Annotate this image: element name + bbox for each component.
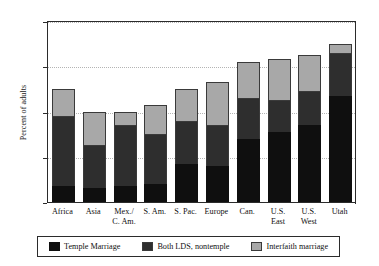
bar-s-pac[interactable]: [175, 89, 198, 202]
bar-segment-interfaith: [52, 89, 75, 116]
bar-can[interactable]: [237, 62, 260, 202]
bar-segment-temple: [144, 184, 167, 202]
legend-swatch-bothlds: [142, 242, 153, 251]
bar-segment-bothlds: [144, 134, 167, 184]
bar-mex-c-am[interactable]: [114, 112, 137, 202]
bar-u-s-west[interactable]: [298, 55, 321, 202]
bar-segment-temple: [268, 132, 291, 202]
bar-segment-interfaith: [268, 59, 291, 100]
bar-segment-temple: [52, 186, 75, 202]
bar-europe[interactable]: [206, 82, 229, 202]
legend-item[interactable]: Temple Marriage: [49, 242, 120, 251]
x-tick-label: Utah: [310, 207, 370, 217]
bar-segment-bothlds: [298, 91, 321, 125]
bar-segment-temple: [298, 125, 321, 202]
stacked-bar-chart-figure: Percent of adults 020406080 AfricaAsiaMe…: [0, 0, 379, 266]
bar-segment-temple: [329, 96, 352, 202]
bar-africa[interactable]: [52, 89, 75, 202]
plot-frame-right-border: [355, 21, 356, 204]
legend-swatch-interfaith: [251, 242, 262, 251]
bar-segment-temple: [114, 186, 137, 202]
bar-segment-bothlds: [175, 121, 198, 164]
y-axis-title: Percent of adults: [19, 43, 28, 183]
bar-segment-temple: [175, 164, 198, 202]
bar-asia[interactable]: [83, 112, 106, 202]
chart-legend: Temple MarriageBoth LDS, nontempleInterf…: [37, 236, 340, 257]
bar-segment-bothlds: [206, 125, 229, 166]
bar-segment-interfaith: [175, 89, 198, 121]
y-tick-mark: [43, 203, 47, 204]
legend-label: Temple Marriage: [64, 242, 120, 251]
legend-item[interactable]: Both LDS, nontemple: [142, 242, 229, 251]
bar-segment-interfaith: [329, 44, 352, 53]
bar-segment-interfaith: [144, 105, 167, 134]
bar-segment-temple: [206, 166, 229, 202]
legend-swatch-temple: [49, 242, 60, 251]
bar-segment-bothlds: [237, 98, 260, 139]
bar-segment-bothlds: [329, 53, 352, 96]
plot-area: [47, 22, 355, 203]
bar-segment-bothlds: [83, 145, 106, 188]
bar-segment-temple: [83, 188, 106, 202]
legend-item[interactable]: Interfaith marriage: [251, 242, 328, 251]
bar-u-s-east[interactable]: [268, 59, 291, 202]
legend-label: Interfaith marriage: [266, 242, 328, 251]
bar-segment-interfaith: [237, 62, 260, 98]
bar-segment-temple: [237, 139, 260, 202]
bar-s-am[interactable]: [144, 105, 167, 202]
bar-segment-bothlds: [52, 116, 75, 186]
bar-segment-bothlds: [268, 100, 291, 132]
bar-segment-interfaith: [206, 82, 229, 125]
gridline: [48, 22, 355, 23]
bar-utah[interactable]: [329, 44, 352, 202]
bar-segment-interfaith: [298, 55, 321, 91]
legend-label: Both LDS, nontemple: [157, 242, 229, 251]
bar-segment-bothlds: [114, 125, 137, 186]
bar-segment-interfaith: [114, 112, 137, 126]
bar-segment-interfaith: [83, 112, 106, 146]
